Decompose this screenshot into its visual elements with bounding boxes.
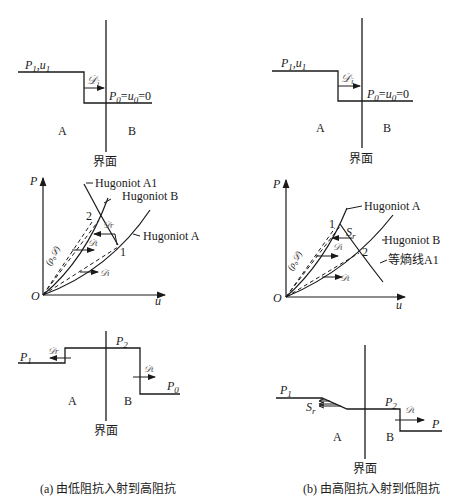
- rayleigh-label: (ρ₀𝒟): [43, 244, 62, 267]
- curve-label: Hugoniot A: [143, 229, 200, 243]
- wave-label: 𝒟i: [341, 71, 354, 86]
- rarefaction-label: Sr: [346, 225, 356, 241]
- curve-label: 等熵线A1: [388, 252, 439, 267]
- state-label: P0=u0=0: [108, 89, 151, 105]
- point-label: 1: [120, 245, 126, 259]
- state-label: P0: [166, 379, 179, 395]
- interface-label: 界面: [93, 155, 117, 169]
- panel-a-bottom-diagram: P1 P2 P0 𝒟r 𝒟t A B 界面: [18, 331, 180, 438]
- panel-b-hugoniot-plot: P u O Hugoniot A Hugoniot B 等熵线A1 1 2 Sr…: [272, 177, 440, 312]
- axis-label: P: [272, 177, 281, 191]
- region-label: B: [386, 430, 394, 444]
- region-label: B: [128, 124, 136, 138]
- state-label: P2: [115, 334, 128, 350]
- panel-a-top-diagram: P1,u1 𝒟i P0=u0=0 A B 界面: [18, 20, 152, 169]
- axis-label: u: [396, 298, 402, 312]
- panel-b-top-diagram: P1,u1 𝒟i P0=u0=0 A B 界面: [272, 18, 413, 166]
- curve-label: Hugoniot A: [364, 199, 421, 213]
- state-label: P1: [19, 350, 32, 366]
- rarefaction-fan: [319, 398, 341, 408]
- panel-b-bottom-diagram: P1 P2 P Sr 𝒟t A B 界面: [276, 345, 442, 476]
- caption-b: (b) 由高阻抗入射到低阻抗: [303, 481, 440, 496]
- caption-a: (a) 由低阻抗入射到高阻抗: [40, 481, 176, 496]
- state-label: P: [431, 417, 440, 431]
- point-label: 2: [86, 209, 92, 223]
- interface-label: 界面: [353, 462, 377, 476]
- state-label: P1,u1: [280, 56, 306, 72]
- state-label: P1,u1: [24, 58, 50, 74]
- wave-label: 𝒟i: [100, 268, 110, 278]
- wave-label: 𝒟t: [405, 405, 415, 415]
- origin-label: O: [273, 291, 282, 305]
- region-label: B: [383, 121, 391, 135]
- axis-label: u: [155, 294, 161, 308]
- interface-label: 界面: [349, 152, 373, 166]
- curve-label: Hugoniot B: [384, 233, 440, 247]
- curve-label: Hugoniot A1: [95, 176, 157, 190]
- point-label: 2: [362, 245, 368, 259]
- region-label: A: [333, 430, 342, 444]
- pressure-profile: [276, 398, 442, 431]
- rarefaction-label: Sr: [306, 400, 316, 416]
- axis-label: P: [29, 174, 38, 188]
- rayleigh-label: (ρ₀𝒟): [285, 249, 304, 272]
- figure-canvas: P1,u1 𝒟i P0=u0=0 A B 界面 P u O Hugoniot A…: [0, 0, 457, 497]
- curve-label: Hugoniot B: [122, 189, 178, 203]
- region-label: B: [124, 394, 132, 408]
- region-label: A: [316, 121, 325, 135]
- state-label: P2: [384, 395, 397, 411]
- wave-label: 𝒟i: [333, 242, 343, 252]
- interface-label: 界面: [94, 424, 118, 438]
- pressure-profile: [18, 348, 180, 394]
- wave-label: 𝒟i: [87, 73, 100, 88]
- region-label: A: [58, 124, 67, 138]
- wave-label: 𝒟r: [48, 346, 59, 356]
- origin-label: O: [31, 289, 40, 303]
- state-label: P0=u0=0: [366, 87, 409, 103]
- wave-label: 𝒟t: [340, 273, 350, 283]
- panel-a-hugoniot-plot: P u O Hugoniot A1 Hugoniot B Hugoniot A …: [29, 174, 200, 308]
- wave-label: 𝒟t: [88, 238, 98, 248]
- state-label: P1: [279, 383, 292, 399]
- wave-label: 𝒟t: [144, 364, 154, 374]
- region-label: A: [68, 394, 77, 408]
- point-label: 1: [329, 217, 335, 231]
- wave-label: 𝒟r: [103, 220, 114, 230]
